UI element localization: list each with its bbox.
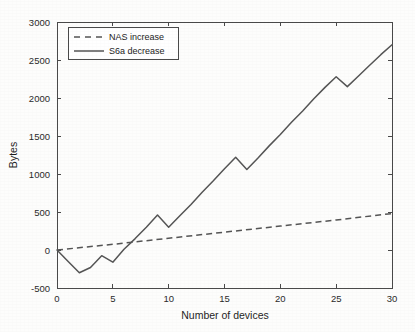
- x-axis-title: Number of devices: [181, 309, 269, 321]
- x-tick-label: 30: [387, 293, 398, 304]
- y-tick-label: 0: [45, 245, 50, 256]
- x-tick-label: 20: [275, 293, 286, 304]
- y-tick-label: -500: [31, 283, 50, 294]
- line-chart: 051015202530 -50005001000150020002500300…: [0, 0, 415, 332]
- y-tick-label: 3000: [29, 17, 50, 28]
- chart-legend: NAS increaseS6a decrease: [68, 27, 178, 59]
- y-tick-label: 2000: [29, 93, 50, 104]
- chart-figure: 051015202530 -50005001000150020002500300…: [0, 0, 415, 332]
- legend-label: NAS increase: [109, 32, 164, 42]
- x-tick-label: 25: [331, 293, 342, 304]
- x-tick-label: 5: [110, 293, 115, 304]
- y-tick-label: 500: [34, 207, 50, 218]
- y-axis-title: Bytes: [7, 142, 19, 168]
- figure-background: [0, 0, 415, 332]
- x-tick-label: 10: [163, 293, 174, 304]
- y-tick-label: 2500: [29, 55, 50, 66]
- y-tick-label: 1500: [29, 131, 50, 142]
- legend-label: S6a decrease: [109, 46, 165, 56]
- x-tick-label: 0: [54, 293, 59, 304]
- x-tick-label: 15: [219, 293, 230, 304]
- y-tick-label: 1000: [29, 169, 50, 180]
